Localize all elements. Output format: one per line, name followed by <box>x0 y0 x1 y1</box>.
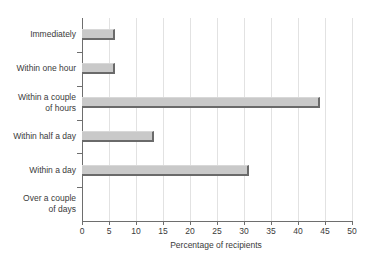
x-tick-label-30: 30 <box>229 226 259 236</box>
x-tick-15 <box>163 221 164 225</box>
bar-row <box>82 199 352 210</box>
gridline-x-30 <box>244 18 245 221</box>
y-category-label: Within a couple of hours <box>0 92 76 114</box>
x-tick-label-45: 45 <box>310 226 340 236</box>
x-axis-title: Percentage of recipients <box>0 240 374 250</box>
bar-chart: 05101520253035404550ImmediatelyWithin on… <box>0 0 374 262</box>
x-tick-10 <box>136 221 137 225</box>
bar <box>82 29 115 40</box>
bar <box>82 97 320 108</box>
bar-row <box>82 29 352 40</box>
x-tick-label-20: 20 <box>175 226 205 236</box>
x-tick-label-10: 10 <box>121 226 151 236</box>
gridline-x-45 <box>325 18 326 221</box>
bar-row <box>82 165 352 176</box>
y-tick-2 <box>77 86 82 87</box>
gridline-x-25 <box>217 18 218 221</box>
gridline-x-10 <box>136 18 137 221</box>
x-tick-label-25: 25 <box>202 226 232 236</box>
x-tick-label-50: 50 <box>337 226 367 236</box>
y-category-label: Immediately <box>0 29 76 40</box>
gridline-x-20 <box>190 18 191 221</box>
bar-row <box>82 97 352 108</box>
gridline-x-15 <box>163 18 164 221</box>
y-tick-3 <box>77 120 82 121</box>
gridline-x-50 <box>352 18 353 221</box>
x-tick-label-40: 40 <box>283 226 313 236</box>
y-tick-4 <box>77 153 82 154</box>
gridline-x-40 <box>298 18 299 221</box>
x-tick-0 <box>82 221 83 225</box>
x-tick-45 <box>325 221 326 225</box>
x-tick-35 <box>271 221 272 225</box>
gridline-x-5 <box>109 18 110 221</box>
gridline-x-35 <box>271 18 272 221</box>
x-tick-label-5: 5 <box>94 226 124 236</box>
x-tick-5 <box>109 221 110 225</box>
x-tick-label-0: 0 <box>67 226 97 236</box>
bar <box>82 63 115 74</box>
bar-row <box>82 63 352 74</box>
y-category-label: Within one hour <box>0 63 76 74</box>
x-tick-40 <box>298 221 299 225</box>
x-tick-label-35: 35 <box>256 226 286 236</box>
bar-row <box>82 131 352 142</box>
x-tick-20 <box>190 221 191 225</box>
y-category-label: Within half a day <box>0 131 76 142</box>
x-tick-50 <box>352 221 353 225</box>
y-tick-1 <box>77 52 82 53</box>
y-category-label: Within a day <box>0 165 76 176</box>
bar <box>82 131 154 142</box>
x-tick-label-15: 15 <box>148 226 178 236</box>
y-category-label: Over a couple of days <box>0 193 76 215</box>
bar <box>82 165 249 176</box>
plot-area <box>82 18 352 221</box>
gridline-x-0 <box>82 18 83 221</box>
x-tick-25 <box>217 221 218 225</box>
y-tick-5 <box>77 187 82 188</box>
x-tick-30 <box>244 221 245 225</box>
